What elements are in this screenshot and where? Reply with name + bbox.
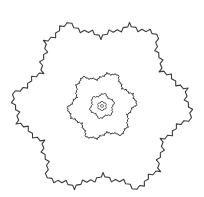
gosper-island-inner <box>90 93 115 118</box>
fractal-diagram <box>0 0 204 197</box>
gosper-island-outer <box>11 22 192 189</box>
gosper-island-middle <box>67 72 137 139</box>
gosper-island-innermost <box>98 101 107 110</box>
gosper-island-figure <box>0 0 204 197</box>
gosper-island-core <box>101 104 104 107</box>
